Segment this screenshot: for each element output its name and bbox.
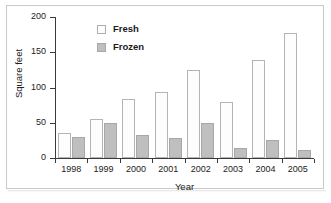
chart-legend: Fresh Frozen — [97, 22, 144, 58]
x-tick-mark — [55, 159, 56, 163]
bar-fresh-2005 — [284, 33, 297, 158]
bar-frozen-2004 — [266, 140, 279, 158]
bars-layer — [55, 17, 314, 158]
legend-item-frozen[interactable]: Frozen — [97, 40, 144, 54]
bar-fresh-2000 — [122, 99, 135, 158]
bar-fresh-2001 — [155, 92, 168, 158]
x-tick-mark — [87, 159, 88, 163]
open-square-swatch-icon — [97, 25, 106, 34]
x-tick-mark — [185, 159, 186, 163]
x-tick-label: 2002 — [184, 165, 218, 174]
x-tick-mark — [314, 159, 315, 163]
bar-fresh-2003 — [220, 102, 233, 158]
y-tick-label: 200 — [6, 12, 46, 21]
y-tick-label: 0 — [6, 153, 46, 162]
x-tick-label: 2001 — [151, 165, 185, 174]
x-tick-label: 1999 — [87, 165, 121, 174]
bar-frozen-2001 — [169, 138, 182, 158]
bar-fresh-2002 — [187, 70, 200, 158]
y-axis-title: Square feet — [13, 35, 24, 113]
x-tick-mark — [282, 159, 283, 163]
x-axis-title: Year — [55, 181, 314, 192]
x-tick-mark — [120, 159, 121, 163]
x-tick-mark — [249, 159, 250, 163]
legend-label-frozen: Frozen — [113, 42, 144, 52]
bar-frozen-2002 — [201, 123, 214, 158]
x-tick-label: 2003 — [216, 165, 250, 174]
x-tick-label: 2000 — [119, 165, 153, 174]
bar-chart: 050100150200 199819992000200120022003200… — [0, 0, 331, 203]
filled-square-swatch-icon — [97, 43, 106, 52]
legend-label-fresh: Fresh — [113, 24, 139, 34]
x-tick-label: 1998 — [54, 165, 88, 174]
bar-fresh-2004 — [252, 60, 265, 158]
bar-frozen-2005 — [298, 150, 311, 158]
x-tick-mark — [152, 159, 153, 163]
x-tick-mark — [217, 159, 218, 163]
bar-frozen-2000 — [136, 135, 149, 158]
bar-frozen-1999 — [104, 123, 117, 158]
bar-fresh-1999 — [90, 119, 103, 158]
y-tick-label: 50 — [6, 118, 46, 127]
x-tick-label: 2005 — [281, 165, 315, 174]
bar-fresh-1998 — [58, 133, 71, 158]
bar-frozen-2003 — [234, 148, 247, 158]
bar-frozen-1998 — [72, 137, 85, 158]
x-tick-label: 2004 — [248, 165, 282, 174]
legend-item-fresh[interactable]: Fresh — [97, 22, 144, 36]
